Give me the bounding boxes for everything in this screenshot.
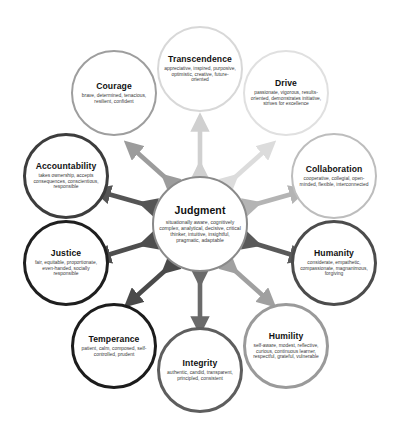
node-integrity-title: Integrity <box>183 359 218 368</box>
node-collaboration-descriptors: cooperative, collegial, open-minded, fle… <box>297 176 371 188</box>
node-courage-descriptors: brave, determined, tenacious, resilient,… <box>77 93 151 105</box>
node-humility-title: Humility <box>269 332 304 341</box>
node-integrity-descriptors: authentic, candid, transparent, principl… <box>164 370 236 382</box>
node-judgment-title: Judgment <box>175 205 226 216</box>
node-humility-descriptors: self-aware, modest, reflective, curious,… <box>250 343 322 360</box>
node-courage-title: Courage <box>96 82 132 91</box>
node-temperance-title: Temperance <box>89 335 140 344</box>
node-accountability[interactable]: Accountability takes ownership, accepts … <box>23 133 109 219</box>
connector-drive <box>232 147 269 180</box>
node-humanity-title: Humanity <box>314 249 354 258</box>
node-transcendence-title: Transcendence <box>168 55 232 64</box>
node-drive-descriptors: passionate, vigorous, results-oriented, … <box>249 90 323 107</box>
node-temperance[interactable]: Temperance patient, calm, composed, self… <box>71 303 157 389</box>
node-humility[interactable]: Humility self-aware, modest, reflective,… <box>243 303 329 389</box>
node-humanity[interactable]: Humanity considerate, empathetic, compas… <box>291 220 377 306</box>
connector-collaboration <box>253 192 299 205</box>
node-integrity[interactable]: Integrity authentic, candid, transparent… <box>157 327 243 413</box>
node-temperance-descriptors: patient, calm, composed, self-controlled… <box>78 346 150 358</box>
node-justice-descriptors: fair, equitable, proportionate, even-han… <box>30 260 102 277</box>
node-drive[interactable]: Drive passionate, vigorous, results-orie… <box>243 50 329 136</box>
node-humanity-descriptors: considerate, empathetic, compassionate, … <box>298 260 370 277</box>
connector-humility <box>232 268 269 301</box>
node-judgment-descriptors: situationally aware, cognitively complex… <box>158 219 242 243</box>
diagram-canvas: Judgment situationally aware, cognitivel… <box>0 0 399 435</box>
node-drive-title: Drive <box>275 79 297 88</box>
connector-temperance <box>131 268 168 301</box>
node-accountability-title: Accountability <box>36 162 97 171</box>
connector-accountability <box>101 192 147 205</box>
node-justice[interactable]: Justice fair, equitable, proportionate, … <box>23 220 109 306</box>
node-judgment[interactable]: Judgment situationally aware, cognitivel… <box>152 176 248 272</box>
node-collaboration-title: Collaboration <box>306 165 363 174</box>
node-collaboration[interactable]: Collaboration cooperative, collegial, op… <box>291 133 377 219</box>
node-transcendence[interactable]: Transcendence appreciative, inspired, pu… <box>157 26 243 112</box>
node-justice-title: Justice <box>51 249 81 258</box>
node-transcendence-descriptors: appreciative, inspired, purposive, optim… <box>163 66 237 83</box>
connector-courage <box>131 147 168 180</box>
node-accountability-descriptors: takes ownership, accepts consequences, c… <box>30 173 102 190</box>
node-courage[interactable]: Courage brave, determined, tenacious, re… <box>71 50 157 136</box>
